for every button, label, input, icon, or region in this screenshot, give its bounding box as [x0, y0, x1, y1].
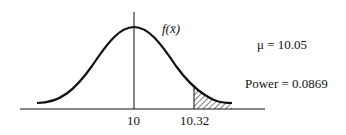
- tick-label-10: 10: [127, 113, 140, 129]
- curve-label: f(x̄): [162, 21, 180, 37]
- power-annotation: Power = 0.0869: [245, 76, 328, 92]
- tick-label-10-32: 10.32: [180, 113, 209, 129]
- mu-annotation: μ = 10.05: [257, 37, 307, 53]
- power-shaded-region: [194, 80, 234, 110]
